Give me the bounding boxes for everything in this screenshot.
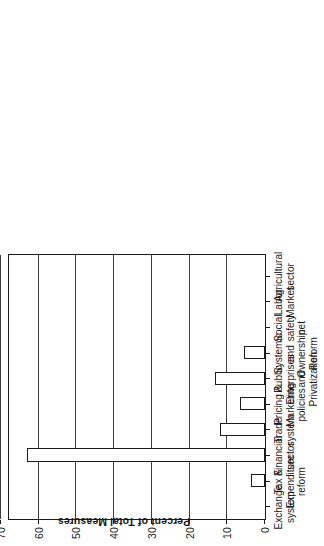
chart-area: 010203040506070 Percent of Total Measure… — [0, 0, 324, 546]
category-tick-mark — [266, 481, 270, 482]
category-tick-mark — [266, 455, 270, 456]
category-tick-mark — [266, 276, 270, 277]
category-tick-mark — [266, 301, 270, 302]
value-tick-mark — [264, 520, 265, 524]
bar-3 — [27, 448, 265, 461]
value-tick-label: 60 — [33, 527, 45, 539]
bar-chart-figure: 010203040506070 Percent of Total Measure… — [0, 0, 324, 546]
bar-6 — [215, 372, 265, 385]
bar-5 — [240, 397, 265, 410]
plot-box — [8, 254, 266, 520]
bars-layer — [9, 255, 265, 519]
bar-2 — [251, 474, 265, 487]
value-tick-label: 50 — [70, 527, 82, 539]
bar-7 — [244, 346, 265, 359]
category-tick-mark — [266, 429, 270, 430]
value-tick-label: 10 — [221, 527, 233, 539]
value-tick-label: 40 — [108, 527, 120, 539]
value-tick-label: 0 — [259, 527, 271, 533]
value-tick-label: 20 — [184, 527, 196, 539]
value-tick-mark — [0, 520, 1, 524]
gridline — [0, 255, 1, 519]
category-label: Agricultural sector — [273, 246, 296, 308]
value-tick-label: 70 — [0, 527, 7, 539]
category-tick-mark — [266, 404, 270, 405]
category-tick-mark — [266, 327, 270, 328]
category-tick-mark — [266, 353, 270, 354]
category-tick-mark — [266, 378, 270, 379]
bar-4 — [220, 423, 265, 436]
value-tick-label: 30 — [146, 527, 158, 539]
category-axis: Exchange systemTax & Expenditure reformF… — [266, 254, 324, 520]
category-tick-mark — [266, 506, 270, 507]
